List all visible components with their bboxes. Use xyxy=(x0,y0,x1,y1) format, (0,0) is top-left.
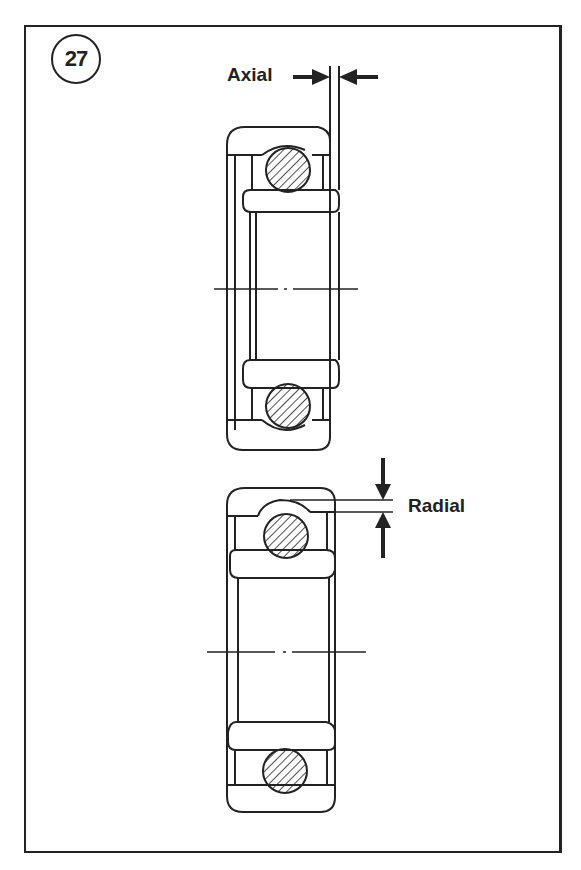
arrow-up-icon xyxy=(375,512,391,528)
diagram-canvas: 27 Axial Radial xyxy=(0,0,581,870)
bottom-bearing xyxy=(207,488,366,812)
arrow-down-icon xyxy=(375,484,391,500)
bearing-diagram xyxy=(0,0,581,870)
arrow-left-icon xyxy=(339,69,357,85)
arrow-right-icon xyxy=(312,69,330,85)
top-bearing xyxy=(214,127,358,450)
